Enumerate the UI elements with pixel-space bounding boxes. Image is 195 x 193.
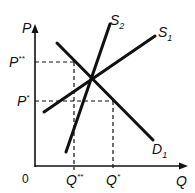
origin-label: 0: [22, 172, 29, 186]
y-axis-label: P: [22, 20, 32, 36]
x-axis-arrow: [179, 163, 188, 170]
s2-label: S2: [110, 12, 124, 31]
d1-label: D1: [152, 141, 167, 160]
p-star-label: P*: [17, 93, 30, 109]
supply-demand-diagram: P Q 0 S2 S1 D1 P** P* Q** Q*: [0, 0, 195, 193]
q-double-star-label: Q**: [66, 172, 84, 188]
y-axis-arrow: [32, 24, 39, 33]
q-star-label: Q*: [106, 172, 121, 188]
p-double-star-label: P**: [9, 54, 25, 70]
s1-label: S1: [158, 24, 172, 43]
x-axis-label: Q: [176, 173, 187, 189]
